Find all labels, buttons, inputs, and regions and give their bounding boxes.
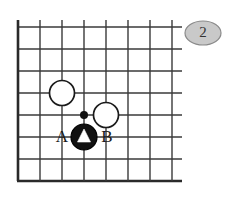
point-label-a: A bbox=[56, 127, 69, 146]
go-board: A B 2 bbox=[0, 0, 225, 204]
figure-number-text: 2 bbox=[199, 24, 207, 40]
star-point-dot bbox=[80, 111, 88, 119]
point-label-b: B bbox=[101, 127, 112, 146]
white-stone[interactable] bbox=[94, 103, 119, 128]
grid-vertical-lines bbox=[18, 20, 172, 181]
figure-number-badge: 2 bbox=[185, 21, 221, 45]
white-stone[interactable] bbox=[50, 81, 75, 106]
black-stone-marked[interactable] bbox=[71, 124, 97, 150]
go-diagram-root: A B 2 bbox=[0, 0, 225, 204]
